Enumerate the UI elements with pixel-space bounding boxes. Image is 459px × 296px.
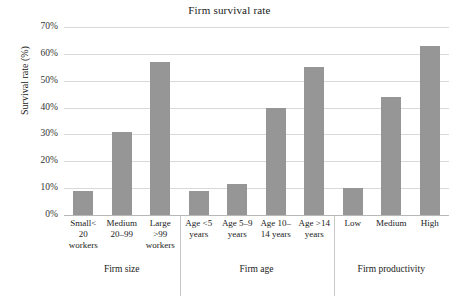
plot-area [64,27,449,215]
y-axis-tick-label: 60% [0,48,58,58]
x-axis-category-label-line: High [411,218,450,229]
y-axis-tick-label: 40% [0,102,58,112]
x-axis-category-label-line: 20–99 [103,229,142,240]
bar [112,132,132,215]
x-axis-category-label: Age 10–14 years [257,218,296,240]
x-axis-category-label: Low [334,218,373,229]
gridline [64,54,449,55]
gridline [64,81,449,82]
x-axis-category-label-line: Age >14 [295,218,334,229]
x-axis-category-label-line: workers [141,240,180,251]
x-axis-group-label: Firm age [180,264,334,274]
x-axis-category-label-line: 20 [64,229,103,240]
x-axis-category-label-line: 14 years [257,229,296,240]
x-axis-category-label: Large>99workers [141,218,180,251]
x-axis-category-label-line: workers [64,240,103,251]
bar [227,184,247,215]
x-axis-category-label-line: years [295,229,334,240]
x-axis-category-label-line: Large [141,218,180,229]
group-separator [180,216,181,296]
x-axis-category-label: Age <5years [180,218,219,240]
y-axis-tick-label: 20% [0,155,58,165]
bar [304,67,324,215]
x-axis-category-label-line: years [218,229,257,240]
bar [266,108,286,215]
y-axis-tick-label: 50% [0,75,58,85]
y-axis-tick-label: 70% [0,21,58,31]
x-axis-category-label: High [411,218,450,229]
chart-container: Firm survival rate Survival rate (%) 0%1… [0,0,459,296]
x-axis-category-label-line: Medium [372,218,411,229]
x-axis-category-label-line: Age 5–9 [218,218,257,229]
x-axis-category-label-line: >99 [141,229,180,240]
bar [73,191,93,215]
x-axis-category-label: Small<20workers [64,218,103,251]
group-separator [334,216,335,296]
bar [420,46,440,215]
x-axis-group-label: Firm productivity [334,264,450,274]
bar [189,191,209,215]
gridline [64,27,449,28]
x-axis-category-label-line: Low [334,218,373,229]
bar [150,62,170,215]
bar [381,97,401,215]
category-label-band: Small<20workersMedium20–99Large>99worker… [64,216,449,296]
x-axis-group-label: Firm size [64,264,180,274]
x-axis-category-label: Age >14years [295,218,334,240]
x-axis-category-label-line: Age <5 [180,218,219,229]
x-axis-category-label-line: Small< [64,218,103,229]
y-axis-tick-label: 0% [0,209,58,219]
y-axis-tick-label: 30% [0,128,58,138]
chart-title: Firm survival rate [0,4,459,16]
x-axis-category-label-line: years [180,229,219,240]
bar [343,188,363,215]
x-axis-category-label: Medium20–99 [103,218,142,240]
x-axis-category-label: Medium [372,218,411,229]
y-axis-tick-label: 10% [0,182,58,192]
x-axis-category-label: Age 5–9years [218,218,257,240]
x-axis-category-label-line: Medium [103,218,142,229]
x-axis-category-label-line: Age 10– [257,218,296,229]
